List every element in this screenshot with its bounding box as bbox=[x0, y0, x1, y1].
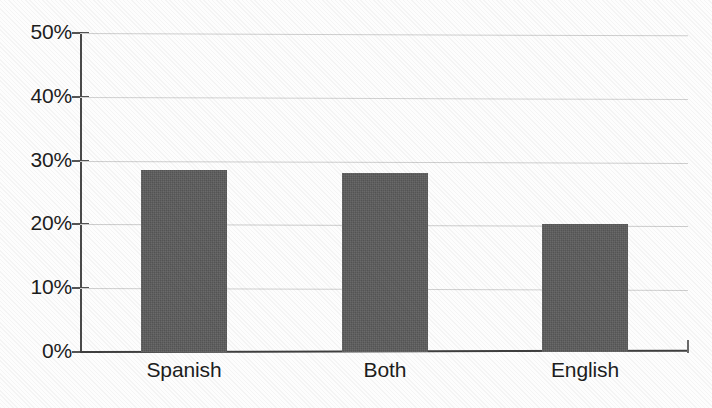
gridline-40 bbox=[80, 97, 688, 100]
bar-english bbox=[542, 224, 628, 352]
x-label-english: English bbox=[515, 358, 655, 382]
plot-area bbox=[80, 33, 688, 352]
x-axis-category-labels: Spanish Both English bbox=[0, 358, 712, 398]
gridline-50 bbox=[80, 33, 688, 36]
y-tick-label-10: 10% bbox=[14, 275, 72, 299]
y-tick-label-20: 20% bbox=[14, 211, 72, 235]
y-tick-label-50: 50% bbox=[14, 20, 72, 44]
y-tick-label-30: 30% bbox=[14, 148, 72, 172]
x-label-both: Both bbox=[315, 358, 455, 382]
y-axis-tick-labels: 50% 40% 30% 20% 10% 0% bbox=[4, 0, 72, 408]
bar-both bbox=[342, 173, 428, 352]
y-tick-label-40: 40% bbox=[14, 84, 72, 108]
gridline-30 bbox=[80, 161, 688, 164]
x-label-spanish: Spanish bbox=[114, 358, 254, 382]
chart-figure: 50% 40% 30% 20% 10% 0% Spanish Both Engl… bbox=[0, 0, 712, 408]
bar-spanish bbox=[141, 170, 227, 352]
